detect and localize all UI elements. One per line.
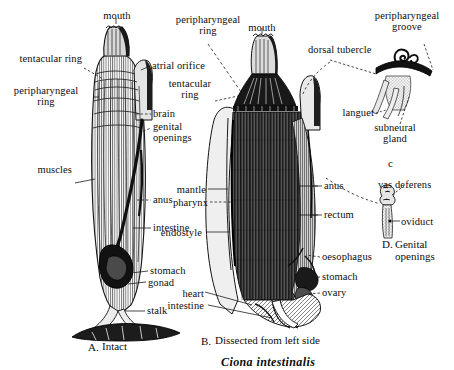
panel-b-dissected-drawing bbox=[206, 34, 321, 328]
label-c-languet: languet bbox=[316, 107, 374, 118]
label-b-stomach: stomach bbox=[322, 271, 358, 282]
label-b-mouth: mouth bbox=[232, 22, 292, 33]
caption-d-prefix: D. bbox=[382, 238, 393, 250]
figure-plate: mouth tentacular ring peripharyngeal rin… bbox=[0, 0, 454, 370]
caption-d: Genital openings bbox=[395, 238, 453, 262]
label-b-ovary: ovary bbox=[322, 287, 346, 298]
label-b-mantle: mantle bbox=[150, 184, 206, 195]
label-a-tentacular-ring: tentacular ring bbox=[4, 53, 82, 64]
label-c-peripharyngeal-groove: peripharyngeal groove bbox=[360, 10, 454, 32]
label-a-stomach: stomach bbox=[150, 265, 186, 276]
label-d-oviduct: oviduct bbox=[401, 216, 433, 227]
label-a-muscles: muscles bbox=[14, 164, 72, 175]
label-b-tentacular-ring: tentacular ring bbox=[160, 78, 220, 100]
label-a-atrial-orifice: atrial orifice bbox=[152, 60, 205, 71]
label-a-gonad: gonad bbox=[148, 277, 174, 288]
label-b-anus: anus bbox=[324, 180, 344, 191]
species-caption: Ciona intestinalis bbox=[221, 355, 315, 370]
label-a-peripharyngeal-ring: peripharyngeal ring bbox=[2, 85, 90, 107]
label-c-dorsal-tubercle: dorsal tubercle bbox=[308, 44, 372, 55]
panel-c-dorsal-tubercle-drawing bbox=[372, 50, 432, 119]
label-d-vas-deferens: vas deferens bbox=[378, 179, 431, 190]
panel-d-genital-openings-drawing bbox=[380, 185, 395, 238]
caption-a-prefix: A. bbox=[88, 341, 99, 353]
label-a-mouth: mouth bbox=[86, 10, 148, 21]
label-b-rectum: rectum bbox=[324, 209, 354, 220]
label-b-endostyle: endostyle bbox=[136, 227, 202, 238]
label-b-pharynx: pharynx bbox=[146, 197, 208, 208]
label-c-subneural-gland: subneural gland bbox=[358, 122, 432, 144]
caption-b: Dissected from left side bbox=[215, 334, 320, 346]
label-b-intestine: intestine bbox=[148, 300, 204, 311]
caption-a: Intact bbox=[102, 340, 127, 352]
label-b-oesophagus: oesophagus bbox=[322, 251, 372, 262]
caption-b-prefix: B. bbox=[201, 335, 211, 347]
label-a-genital-openings: genital openings bbox=[153, 121, 192, 143]
label-b-heart: heart bbox=[160, 288, 204, 299]
label-a-brain: brain bbox=[153, 108, 175, 119]
caption-c: c bbox=[388, 157, 393, 169]
